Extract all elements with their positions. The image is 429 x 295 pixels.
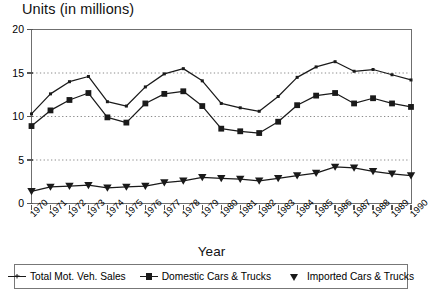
y-axis-tick-label: 10 — [2, 110, 24, 122]
y-axis-tick-mark — [27, 72, 33, 73]
y-axis-tick-label: 15 — [2, 67, 24, 79]
y-axis-tick-label: 0 — [2, 197, 24, 209]
legend-item[interactable]: Total Mot. Veh. Sales — [8, 271, 126, 282]
legend-marker-square-icon — [140, 271, 158, 282]
legend-marker-plus-icon — [8, 271, 26, 282]
y-axis-tick-label: 20 — [2, 23, 24, 35]
legend-item[interactable]: Domestic Cars & Trucks — [140, 271, 271, 282]
y-axis-tick-mark — [27, 159, 33, 160]
plot-area — [31, 29, 412, 204]
y-axis-tick-mark — [27, 29, 33, 30]
legend-item[interactable]: Imported Cars & Trucks — [285, 271, 414, 282]
chart-title: Units (in millions) — [22, 1, 134, 17]
legend-label: Domestic Cars & Trucks — [162, 271, 271, 282]
y-axis-tick-label: 5 — [2, 154, 24, 166]
x-axis-title: Year — [0, 244, 423, 259]
legend-marker-triangle-down-icon — [285, 271, 303, 282]
chart-legend: Total Mot. Veh. SalesDomestic Cars & Tru… — [14, 264, 408, 289]
legend-label: Total Mot. Veh. Sales — [30, 271, 126, 282]
y-axis-tick-mark — [27, 116, 33, 117]
legend-label: Imported Cars & Trucks — [307, 271, 414, 282]
